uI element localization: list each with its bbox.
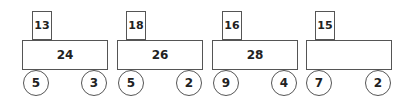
car-1: 13 24 5 3 [22, 0, 117, 103]
car-top-box: 16 [222, 11, 242, 40]
wheel-right: 4 [271, 70, 297, 96]
wheel-right: 3 [81, 70, 107, 96]
wheel-left: 7 [306, 70, 332, 96]
wheel-left: 9 [213, 70, 239, 96]
car-3: 16 28 9 4 [212, 0, 307, 103]
wheel-left: 5 [23, 70, 49, 96]
car-2: 18 26 5 2 [117, 0, 212, 103]
car-top-box: 13 [32, 11, 52, 40]
car-body-box: 24 [22, 40, 108, 70]
car-body-box [306, 40, 392, 70]
car-top-box: 15 [315, 11, 335, 40]
wheel-right: 2 [365, 70, 391, 96]
car-body-box: 26 [117, 40, 203, 70]
car-body-box: 28 [212, 40, 298, 70]
wheel-right: 2 [176, 70, 202, 96]
car-4: 15 7 2 [306, 0, 401, 103]
wheel-left: 5 [118, 70, 144, 96]
car-top-box: 18 [126, 11, 146, 40]
